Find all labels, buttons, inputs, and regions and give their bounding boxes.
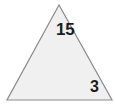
right-measure-label: 3 <box>90 79 99 95</box>
apex-measure-label: 15 <box>56 21 75 38</box>
triangle-figure: 15 3 <box>0 0 115 105</box>
